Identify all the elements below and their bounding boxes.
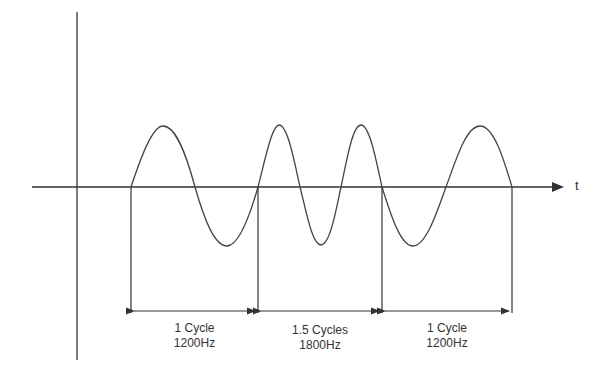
fsk-waveform-diagram bbox=[0, 0, 596, 376]
time-axis-label: t bbox=[575, 178, 579, 193]
frequency-label: 1200Hz bbox=[385, 336, 509, 351]
segment-label-3: 1 Cycle 1200Hz bbox=[385, 321, 509, 351]
cycles-label: 1 Cycle bbox=[134, 321, 255, 336]
segment-label-1: 1 Cycle 1200Hz bbox=[134, 321, 255, 351]
cycles-label: 1.5 Cycles bbox=[261, 323, 379, 338]
frequency-label: 1800Hz bbox=[261, 338, 379, 353]
time-axis-arrowhead bbox=[552, 182, 564, 192]
frequency-label: 1200Hz bbox=[134, 336, 255, 351]
waveform bbox=[131, 125, 512, 246]
segment-label-2: 1.5 Cycles 1800Hz bbox=[261, 323, 379, 353]
cycles-label: 1 Cycle bbox=[385, 321, 509, 336]
